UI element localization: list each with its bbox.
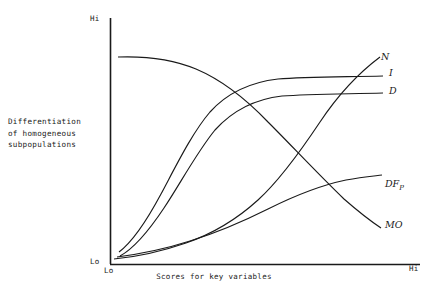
curve-label-df-text: DF [385, 178, 399, 189]
x-axis-tick-low: Lo [104, 266, 114, 275]
curve-I [119, 76, 383, 252]
x-axis-tick-high: Hi [409, 264, 419, 273]
curves-group [114, 57, 383, 259]
curve-label-d: D [389, 85, 397, 96]
y-axis-tick-low: Lo [90, 257, 100, 266]
y-axis-title-line-1: Differentiation [8, 116, 81, 128]
curve-label-df-subscript: P [399, 184, 404, 192]
y-axis-title-line-3: subpopulations [8, 139, 81, 151]
y-axis-title: Differentiation of homogeneous subpopula… [8, 116, 81, 151]
curve-label-n: N [381, 51, 389, 62]
curve-N [114, 57, 380, 259]
y-axis-tick-high: Hi [90, 14, 100, 23]
x-axis-title: Scores for key variables [156, 272, 272, 281]
curve-DF-P [117, 175, 382, 257]
y-axis-title-line-2: of homogeneous [8, 128, 81, 140]
curve-label-mo: MO [385, 219, 403, 230]
curve-label-i: I [389, 67, 393, 78]
curve-MO [118, 57, 381, 228]
curve-D [120, 93, 383, 256]
axes-group [110, 18, 420, 265]
curve-label-df-p: DFP [385, 178, 404, 192]
